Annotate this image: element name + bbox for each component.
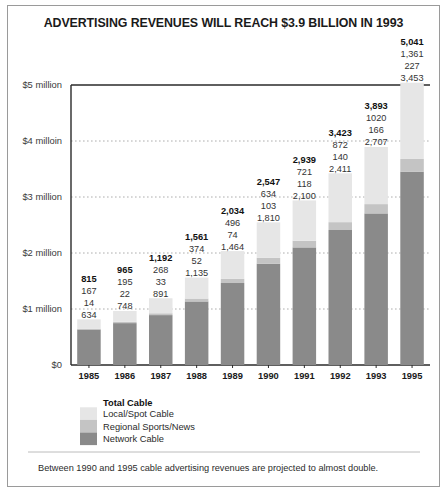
legend-swatch (80, 407, 97, 420)
legend-swatch (80, 420, 97, 433)
legend-swatch (80, 433, 97, 446)
legend-item-label: Network Cable (103, 434, 164, 444)
footnote-text: Between 1990 and 1995 cable advertising … (38, 463, 378, 473)
chart-page: ADVERTISING REVENUES WILL REACH $3.9 BIL… (0, 0, 447, 493)
legend-item-label: Regional Sports/News (103, 422, 195, 432)
chart-legend: Total CableLocal/Spot CableRegional Spor… (0, 0, 447, 493)
legend-title: Total Cable (103, 398, 152, 408)
legend-item-label: Local/Spot Cable (103, 409, 174, 419)
